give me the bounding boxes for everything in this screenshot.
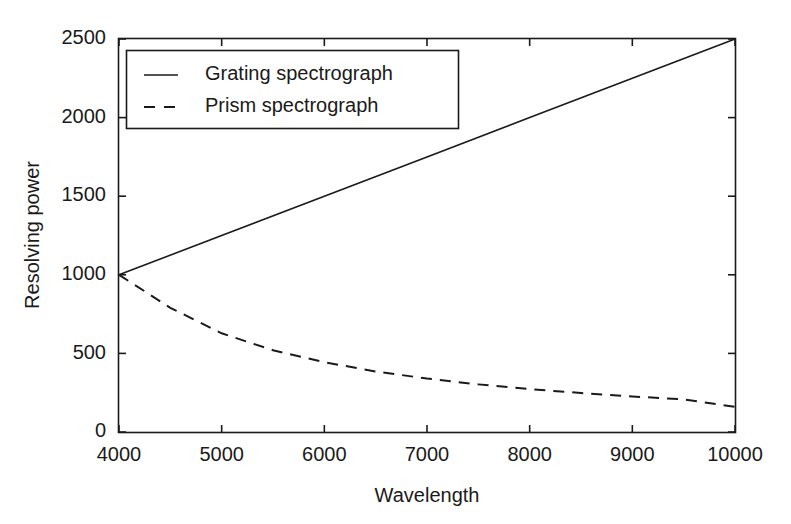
x-tick-label: 9000 — [610, 443, 655, 465]
y-tick-label: 500 — [73, 341, 106, 363]
x-tick-label: 4000 — [97, 443, 142, 465]
y-tick-label: 0 — [95, 419, 106, 441]
y-axis-title: Resolving power — [21, 161, 43, 309]
legend-label-grating: Grating spectrograph — [205, 62, 393, 84]
x-tick-label: 6000 — [302, 443, 347, 465]
y-tick-label: 1000 — [62, 262, 107, 284]
y-tick-label: 2500 — [62, 26, 107, 48]
resolving-power-chart: 40005000600070008000900010000 0500100015… — [0, 0, 791, 524]
x-tick-label: 8000 — [507, 443, 552, 465]
y-tick-label: 1500 — [62, 183, 107, 205]
x-axis-title: Wavelength — [375, 484, 480, 506]
x-tick-label: 5000 — [199, 443, 244, 465]
y-tick-label: 2000 — [62, 105, 107, 127]
legend[interactable]: Grating spectrograph Prism spectrograph — [127, 51, 459, 129]
x-tick-label: 10000 — [707, 443, 763, 465]
x-tick-label: 7000 — [405, 443, 450, 465]
legend-label-prism: Prism spectrograph — [205, 94, 378, 116]
figure-container: 40005000600070008000900010000 0500100015… — [0, 0, 791, 524]
